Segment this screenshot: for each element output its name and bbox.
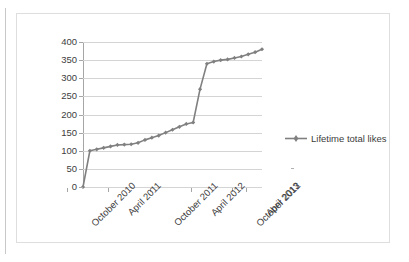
x-axis-tick-mark	[67, 188, 68, 192]
y-axis-tick-mark	[79, 169, 83, 170]
data-point-marker	[129, 142, 133, 146]
y-axis-tick-label: 100	[43, 146, 77, 156]
data-point-marker	[232, 56, 236, 60]
y-axis-tick-mark	[79, 115, 83, 116]
chart-container: 400350300250200150100500 Lifetime total …	[16, 13, 390, 243]
y-axis-tick-mark	[79, 151, 83, 152]
legend-marker-icon	[285, 134, 307, 143]
data-point-marker	[122, 142, 126, 146]
x-axis-tick-mark	[108, 188, 109, 192]
data-point-marker	[102, 146, 106, 150]
data-point-marker	[150, 136, 154, 140]
y-axis-tick-label: 250	[43, 91, 77, 101]
data-point-marker	[212, 59, 216, 63]
data-point-marker	[246, 52, 250, 56]
y-axis-tick-mark	[79, 78, 83, 79]
y-axis-tick-label: 300	[43, 73, 77, 83]
series-line	[83, 49, 262, 187]
data-point-marker	[225, 57, 229, 61]
y-axis-tick-mark	[79, 133, 83, 134]
x-axis-tick-mark	[246, 188, 247, 192]
gridline	[83, 187, 262, 188]
legend-label: Lifetime total likes	[311, 133, 387, 144]
x-axis-tick-mark	[191, 188, 192, 192]
y-axis-tick-mark	[79, 42, 83, 43]
data-point-marker	[205, 62, 209, 66]
y-axis-tick-label: 0	[43, 182, 77, 192]
series-markers	[81, 47, 264, 189]
x-axis-tick-mark	[150, 188, 151, 192]
y-axis-tick-label: 150	[43, 128, 77, 138]
y-axis-tick-label: 50	[43, 164, 77, 174]
x-axis-tick-mark	[232, 188, 233, 192]
data-point-marker	[108, 144, 112, 148]
scan-artifact-speck	[291, 168, 294, 169]
data-point-marker	[95, 147, 99, 151]
y-axis-tick-mark	[79, 187, 83, 188]
data-point-marker	[88, 149, 92, 153]
y-axis-tick-mark	[79, 60, 83, 61]
data-point-marker	[191, 120, 195, 124]
data-point-marker	[239, 54, 243, 58]
data-point-marker	[198, 87, 202, 91]
y-axis-tick-label: 350	[43, 55, 77, 65]
page-edge-line	[5, 8, 6, 254]
y-axis-tick-label: 200	[43, 110, 77, 120]
plot-area	[83, 42, 262, 187]
y-axis-tick-label: 400	[43, 37, 77, 47]
y-axis-tick-mark	[79, 96, 83, 97]
data-point-marker	[115, 143, 119, 147]
series-lifetime-total-likes	[83, 42, 262, 187]
data-point-marker	[219, 58, 223, 62]
chart-legend: Lifetime total likes	[285, 133, 387, 144]
